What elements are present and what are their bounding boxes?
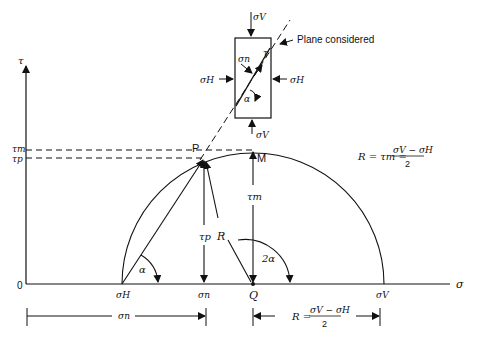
sigma-axis-label: σ — [456, 278, 464, 291]
sigma-v-tick: σV — [376, 290, 390, 300]
point-p-label: P — [192, 142, 199, 154]
element-alpha: α — [244, 94, 250, 104]
sigma-h-tick: σH — [116, 290, 130, 300]
line-sigmaH-to-p — [122, 160, 203, 284]
element-sigma-v-bottom: σV — [256, 130, 270, 140]
dimension-sigma-n: σn — [118, 311, 130, 321]
formula-bottom-den: 2 — [322, 319, 327, 329]
stress-element: σV σV σH σH σn τ α Plane considered — [200, 12, 374, 140]
point-m-label: M — [257, 152, 266, 164]
element-sigma-h-left: σH — [200, 75, 214, 85]
formula-top-den: 2 — [405, 159, 410, 169]
element-sigma-n: σn — [238, 54, 250, 64]
element-tau: τ — [263, 48, 269, 58]
radius-label: R — [216, 230, 225, 243]
formula-bottom-lhs: R = — [291, 311, 311, 322]
tau-p-tick: τp — [12, 154, 23, 164]
element-sigma-h-right: σH — [290, 75, 304, 85]
tau-m-label: τm — [247, 191, 262, 202]
two-alpha-label: 2α — [261, 253, 275, 264]
formula-bottom-num: σV − σH — [310, 305, 350, 315]
radius-line-lower — [228, 240, 251, 282]
sigma-n-tick: σn — [198, 290, 210, 300]
tau-p-label: τp — [199, 231, 212, 242]
origin-label: 0 — [17, 280, 23, 291]
tau-m-tick: τm — [12, 144, 26, 154]
plane-considered-label: Plane considered — [297, 34, 374, 45]
q-tick: Q — [249, 289, 258, 302]
tau-axis-label: τ — [18, 55, 24, 66]
alpha-label: α — [139, 264, 146, 275]
element-sigma-v-top: σV — [253, 12, 267, 22]
formula-top-num: σV − σH — [393, 145, 433, 155]
radius-line-upper — [206, 162, 218, 218]
mohr-circle-diagram: τ σ 0 τm τp P M τp R τm α 2α σH σn Q σV … — [0, 0, 487, 343]
